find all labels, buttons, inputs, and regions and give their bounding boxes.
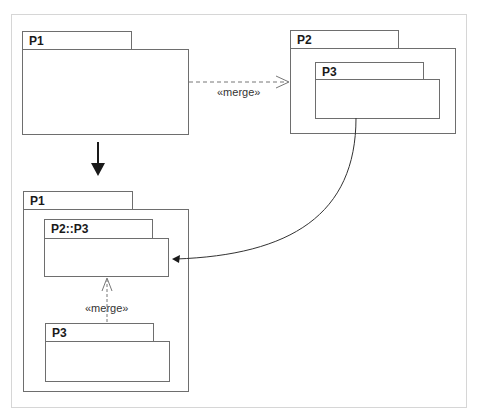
package-p3-nested-label: P3 [322,65,337,79]
merged-package-label: P2::P3 [51,222,88,236]
package-p2-label: P2 [297,33,312,47]
package-p1-label: P1 [29,34,44,48]
package-p1-body[interactable] [22,49,189,135]
package-p3-nested-body[interactable] [315,79,440,119]
merged-package-body[interactable] [44,238,169,277]
merged-package-tab[interactable]: P2::P3 [44,219,153,238]
package-p3-nested-tab[interactable]: P3 [315,62,424,80]
merge-label-top: «merge» [217,86,260,98]
result-package-p3-tab[interactable]: P3 [45,323,154,342]
merge-label-bottom: «merge» [85,302,128,314]
result-package-p3-body[interactable] [45,341,170,382]
result-package-p1-label: P1 [30,194,45,208]
package-p1-tab[interactable]: P1 [22,31,132,50]
result-package-p1-tab[interactable]: P1 [23,191,133,210]
result-package-p3-label: P3 [52,326,67,340]
package-p2-tab[interactable]: P2 [290,30,399,49]
